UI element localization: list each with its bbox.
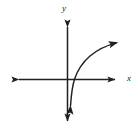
cartesian-graph-canvas (0, 0, 138, 137)
logarithmic-curve (71, 43, 118, 106)
graph-figure: y x (0, 0, 138, 137)
x-axis-label: x (127, 74, 131, 83)
y-axis-label: y (62, 4, 66, 13)
